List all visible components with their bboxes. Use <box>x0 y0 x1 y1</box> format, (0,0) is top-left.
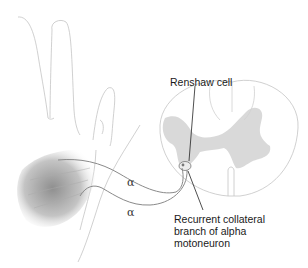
spinal-cord-section <box>160 80 298 196</box>
label-renshaw-cell: Renshaw cell <box>170 76 232 88</box>
label-alpha-lower: α <box>127 206 134 219</box>
anatomy-illustration <box>0 0 308 268</box>
label-collateral-line2: branch of alpha <box>174 225 246 237</box>
label-alpha-upper: α <box>127 176 134 189</box>
figure-canvas: Renshaw cell Recurrent collateral branch… <box>0 0 308 268</box>
label-collateral-line1: Recurrent collateral <box>174 213 265 225</box>
label-collateral-line3: motoneuron <box>174 237 230 249</box>
